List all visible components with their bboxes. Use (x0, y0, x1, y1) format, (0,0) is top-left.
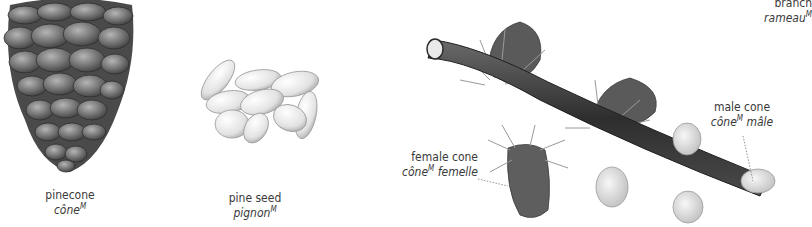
label-en: pine seed (210, 191, 300, 206)
label-en: male cone (692, 100, 792, 115)
label-fr: pignonM (210, 206, 300, 221)
label-en: branch (712, 0, 812, 11)
label-pinecone: pinecone côneM (25, 188, 115, 218)
female-cone-leader (478, 179, 508, 186)
pinecone-illustration (4, 0, 133, 172)
label-branch: branch rameauM (712, 0, 812, 26)
pine-seeds-illustration (195, 55, 321, 147)
label-pine-seed: pine seed pignonM (210, 191, 300, 221)
label-fr: rameauM (712, 11, 812, 26)
label-en: female cone (360, 150, 478, 165)
label-en: pinecone (25, 188, 115, 203)
illustration-layer (0, 0, 812, 227)
label-female-cone: female cone côneM femelle (360, 150, 478, 180)
label-fr: côneM (25, 203, 115, 218)
label-fr: côneM femelle (360, 165, 478, 180)
label-male-cone: male cone côneM mâle (692, 100, 792, 130)
label-fr: côneM mâle (692, 115, 792, 130)
